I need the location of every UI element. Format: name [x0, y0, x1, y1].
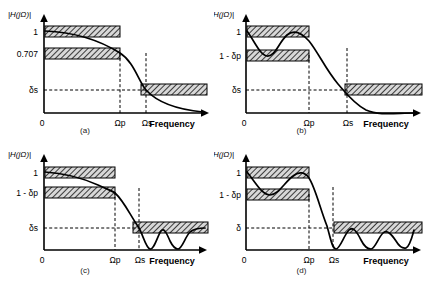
x-axis-arrow: [199, 246, 207, 254]
y-axis-arrow: [242, 14, 250, 22]
x-axis-label: Frequency: [149, 256, 195, 266]
x-tick-omega-s: Ωs: [329, 255, 340, 265]
panel-caption-b: (b): [194, 126, 409, 135]
x-tick-omega-p: Ωp: [109, 255, 120, 265]
y-tick-delta-s: δs: [232, 85, 241, 95]
stopband-band: [345, 84, 422, 95]
y-tick-delta: δ: [236, 223, 241, 233]
y-axis-label: |H(jΩ)|: [214, 10, 234, 19]
y-axis-arrow: [242, 154, 250, 162]
elliptic-plot: |H(jΩ)| 1 1 - δp δ 0 Ωp Ωs Frequency: [214, 142, 429, 284]
magnitude-response-curve: [247, 172, 414, 249]
y-tick-delta-s: δs: [29, 85, 38, 95]
y-tick-one-minus-delta-p: 1 - δp: [16, 188, 38, 198]
y-axis-label: |H(jΩ)|: [8, 10, 31, 19]
y-tick-1: 1: [236, 168, 241, 178]
magnitude-response-curve: [247, 31, 414, 114]
butterworth-plot: |H(jΩ)| 1 0.707 δs 0 Ωp Ωs Frequency: [0, 0, 214, 142]
figure-panel-grid: |H(jΩ)| 1 0.707 δs 0 Ωp Ωs Frequency (a)…: [0, 0, 429, 284]
x-tick-origin: 0: [242, 255, 247, 265]
y-tick-delta-s: δs: [29, 223, 38, 233]
panel-elliptic: |H(jΩ)| 1 1 - δp δ 0 Ωp Ωs Frequency (d): [214, 142, 429, 284]
chebyshev2-plot: |H(jΩ)| 1 1 - δp δs 0 Ωp Ωs Frequency: [0, 142, 214, 284]
panel-chebyshev-2: |H(jΩ)| 1 1 - δp δs 0 Ωp Ωs Frequency (c…: [0, 142, 214, 284]
stopband-band: [141, 84, 207, 95]
y-tick-1: 1: [236, 27, 241, 37]
y-tick-one-minus-delta-p: 1 - δp: [219, 190, 241, 200]
y-axis-arrow: [40, 154, 48, 162]
magnitude-response-curve: [45, 172, 205, 249]
y-tick-0707: 0.707: [17, 49, 39, 59]
magnitude-response-curve: [45, 31, 203, 112]
x-tick-omega-p: Ωp: [303, 255, 314, 265]
panel-caption-a: (a): [0, 126, 192, 135]
stopband-band: [133, 222, 208, 233]
y-tick-1: 1: [33, 27, 38, 37]
chebyshev1-plot: |H(jΩ)| 1 1 - δp δs 0 Ωp Ωs Frequency: [214, 0, 429, 142]
x-axis-label: Frequency: [363, 256, 409, 266]
y-tick-one-minus-delta-p: 1 - δp: [219, 51, 241, 61]
passband-lower-band: [247, 50, 309, 61]
panel-chebyshev-1: |H(jΩ)| 1 1 - δp δs 0 Ωp Ωs Frequency (b…: [214, 0, 429, 142]
y-axis-label: |H(jΩ)|: [214, 150, 234, 159]
panel-caption-c: (c): [0, 266, 192, 275]
passband-upper-band: [247, 26, 309, 37]
panel-butterworth: |H(jΩ)| 1 0.707 δs 0 Ωp Ωs Frequency (a): [0, 0, 214, 142]
y-tick-1: 1: [33, 168, 38, 178]
x-axis-arrow: [413, 246, 421, 254]
passband-lower-band: [45, 48, 120, 59]
x-tick-origin: 0: [40, 255, 45, 265]
x-axis-arrow: [201, 109, 209, 117]
y-axis-label: |H(jΩ)|: [8, 150, 31, 159]
y-axis-arrow: [40, 14, 48, 22]
x-tick-omega-s: Ωs: [135, 255, 146, 265]
panel-caption-d: (d): [194, 266, 409, 275]
